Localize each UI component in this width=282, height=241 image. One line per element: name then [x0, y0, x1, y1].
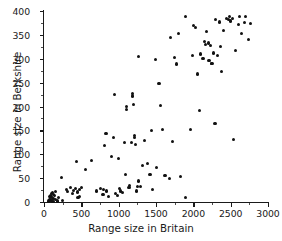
data-point: [213, 122, 216, 125]
x-tick-minor: [212, 203, 213, 205]
data-point: [234, 49, 237, 52]
data-point: [163, 174, 166, 177]
data-point: [112, 136, 115, 139]
y-tick-minor: [41, 71, 43, 72]
data-point: [57, 196, 60, 199]
data-point: [243, 21, 246, 24]
y-tick-major: [40, 178, 44, 179]
data-point: [203, 40, 206, 43]
y-tick-label: 100: [13, 149, 30, 160]
y-tick-minor: [41, 47, 43, 48]
data-point: [105, 189, 108, 192]
y-tick-label: 400: [13, 6, 30, 17]
x-tick-minor: [100, 203, 101, 205]
data-point: [121, 191, 124, 194]
data-point: [205, 30, 208, 33]
y-tick-major: [40, 83, 44, 84]
y-tick-major: [40, 59, 44, 60]
data-point: [116, 194, 119, 197]
data-point: [150, 129, 153, 132]
data-point: [218, 20, 221, 23]
y-tick-minor: [41, 190, 43, 191]
data-point: [135, 189, 138, 192]
data-point: [196, 72, 199, 75]
data-point: [184, 196, 187, 199]
x-tick-minor: [175, 203, 176, 205]
x-tick-label: 1500: [144, 208, 167, 219]
x-tick-label: 1000: [107, 208, 130, 219]
x-tick-label: 2500: [219, 208, 242, 219]
x-tick-major: [81, 203, 82, 207]
x-tick-label: 500: [73, 208, 90, 219]
data-point: [198, 109, 201, 112]
y-tick-label: 300: [13, 53, 30, 64]
x-tick-label: 2000: [182, 208, 205, 219]
y-tick-label: 50: [18, 173, 30, 184]
data-point: [132, 103, 135, 106]
y-tick-minor: [41, 142, 43, 143]
y-tick-label: 250: [13, 77, 30, 88]
y-tick-major: [40, 107, 44, 108]
data-point: [201, 57, 204, 60]
data-point: [110, 155, 113, 158]
y-tick-label: 200: [13, 101, 30, 112]
data-point: [189, 128, 192, 131]
data-point: [95, 189, 98, 192]
data-point: [61, 199, 64, 202]
data-point: [229, 19, 232, 22]
data-point: [71, 192, 74, 195]
x-axis-title: Range size in Britain: [0, 222, 282, 234]
y-tick-major: [40, 130, 44, 131]
data-point: [133, 136, 136, 139]
y-tick-minor: [41, 166, 43, 167]
data-point: [117, 157, 120, 160]
y-tick-minor: [41, 23, 43, 24]
y-tick-label: 350: [13, 29, 30, 40]
data-point: [125, 108, 128, 111]
x-tick-major: [268, 203, 269, 207]
data-point: [157, 82, 160, 85]
x-tick-label: 0: [41, 208, 47, 219]
data-point: [231, 17, 234, 20]
data-point: [244, 15, 247, 18]
y-tick-label: 0: [24, 197, 30, 208]
data-point: [148, 173, 151, 176]
data-point: [124, 173, 127, 176]
x-tick-label: 3000: [256, 208, 279, 219]
data-point: [107, 195, 110, 198]
y-tick-major: [40, 202, 44, 203]
y-tick-label: 150: [13, 125, 30, 136]
x-tick-major: [119, 203, 120, 207]
data-point: [123, 141, 126, 144]
data-point: [171, 140, 174, 143]
data-point: [222, 29, 225, 32]
x-tick-minor: [249, 203, 250, 205]
x-tick-minor: [137, 203, 138, 205]
y-tick-major: [40, 11, 44, 12]
data-point: [104, 132, 107, 135]
data-point: [214, 18, 217, 21]
data-point: [151, 188, 154, 191]
x-tick-major: [44, 203, 45, 207]
data-point: [219, 45, 222, 48]
y-tick-major: [40, 35, 44, 36]
x-tick-major: [193, 203, 194, 207]
data-point: [199, 52, 202, 55]
scatter-plot-figure: Range size in Britain Range size in Berk…: [0, 0, 282, 241]
data-point: [56, 199, 59, 202]
plot-area: [44, 11, 268, 202]
y-tick-minor: [41, 118, 43, 119]
x-tick-major: [156, 203, 157, 207]
data-point: [194, 26, 197, 29]
x-tick-minor: [63, 203, 64, 205]
data-point: [212, 51, 215, 54]
data-point: [210, 62, 213, 65]
y-tick-major: [40, 154, 44, 155]
data-point: [154, 58, 157, 61]
x-tick-major: [231, 203, 232, 207]
data-point: [209, 44, 212, 47]
y-tick-minor: [41, 95, 43, 96]
